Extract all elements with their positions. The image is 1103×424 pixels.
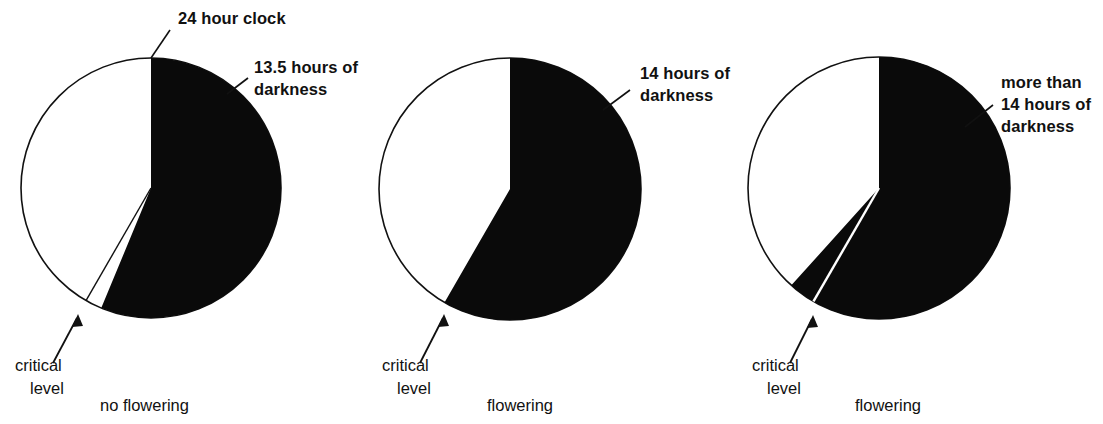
panel-1-clock-leader-line [151,30,170,58]
panel-3-dark-label-line2: 14 hours of [1001,94,1091,114]
panel-2-critical-label-line2: level [397,378,431,398]
figure-canvas: 24 hour clock 13.5 hours of darkness cri… [0,0,1103,424]
panel-2-critical-arrow-head [438,314,449,327]
panel-1-critical-arrow-head [72,314,83,327]
panel-2-critical-label-line1: critical [382,355,429,375]
panel-2-caption: flowering [487,395,553,415]
panel-3-dark-label-line1: more than [1001,72,1082,92]
panel-1-clock-label: 24 hour clock [178,8,286,28]
panel-1-dark-label-line1: 13.5 hours of [254,57,358,77]
panel-3-critical-label-line1: critical [752,355,799,375]
panel-3-dark-label-line3: darkness [1001,116,1074,136]
panel-3-pie [748,57,1010,363]
panel-1-pie [21,30,281,363]
panel-3-critical-arrow-head [807,315,818,328]
panel-2-dark-label-line2: darkness [640,85,713,105]
panel-3-caption: flowering [855,395,921,415]
panel-1-dark-label-line2: darkness [254,79,327,99]
panel-2-dark-label-line1: 14 hours of [640,63,730,83]
pie-diagrams-svg [0,0,1103,424]
panel-3-critical-label-line2: level [767,378,801,398]
panel-1-caption: no flowering [100,395,189,415]
panel-1-critical-label-line1: critical [15,355,62,375]
panel-2-pie [379,58,641,363]
panel-1-critical-label-line2: level [30,378,64,398]
